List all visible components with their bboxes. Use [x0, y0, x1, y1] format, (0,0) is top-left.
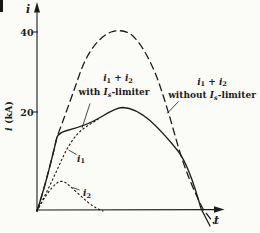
y-axis-unit-label: i (kA)	[3, 101, 14, 131]
tick-label-40: 40	[20, 27, 34, 38]
current-limiter-chart: 40 20 i t i (kA) i1 + i2 with Is-limiter…	[0, 0, 260, 233]
chart-background	[0, 0, 260, 233]
x-axis-title: t	[214, 214, 219, 227]
tick-label-20: 20	[20, 107, 34, 118]
scan-artifact	[0, 0, 3, 12]
chart-canvas: 40 20 i t i (kA) i1 + i2 with Is-limiter…	[0, 0, 260, 233]
y-axis-title: i	[26, 3, 30, 16]
